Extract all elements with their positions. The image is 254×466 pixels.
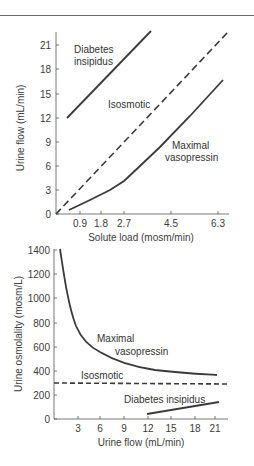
x-tick-label: 15 — [165, 423, 177, 434]
annotation-isosmotic: Isosmotic — [81, 370, 123, 381]
chart-urine-flow-vs-osmolality: 0 200 400 600 800 1000 1200 1400 3 6 9 1… — [13, 245, 229, 448]
annotation-diabetes-insipidus: insipidus — [74, 56, 113, 67]
x-tick-label: 12 — [142, 423, 154, 434]
annotation-maximal-vasopressin: vasopressin — [115, 346, 168, 357]
figure: 0 3 6 9 12 15 18 21 0.9 1.8 2.7 4.5 6.3 … — [0, 0, 254, 466]
annotation-diabetes-insipidus: Diabetes — [74, 44, 113, 55]
y-tick-label: 12 — [40, 113, 52, 124]
x-axis-title: Urine flow (mL/min) — [98, 437, 185, 448]
y-tick-label: 600 — [33, 342, 50, 353]
y-axis-title: Urine osmolality (mosm/L) — [13, 276, 24, 392]
annotation-isosmotic: Isosmotic — [108, 99, 150, 110]
x-tick-label: 4.5 — [164, 218, 178, 229]
y-tick-label: 18 — [40, 64, 52, 75]
x-tick-label: 9 — [121, 423, 127, 434]
y-tick-label: 3 — [45, 185, 51, 196]
annotation-maximal-vasopressin: vasopressin — [165, 152, 218, 163]
x-tick-label: 6.3 — [211, 218, 225, 229]
chart-solute-load-vs-urine-flow: 0 3 6 9 12 15 18 21 0.9 1.8 2.7 4.5 6.3 … — [15, 31, 229, 243]
annotation-diabetes-insipidus: Diabetes insipidus — [124, 394, 205, 405]
annotation-maximal-vasopressin: Maximal — [97, 333, 134, 344]
y-ticks — [54, 250, 57, 419]
y-tick-label: 21 — [40, 40, 52, 51]
y-tick-label: 6 — [45, 161, 51, 172]
y-tick-label: 1400 — [28, 245, 51, 256]
x-ticks — [80, 211, 218, 214]
y-tick-label: 9 — [45, 137, 51, 148]
y-tick-label: 200 — [33, 390, 50, 401]
x-tick-label: 0.9 — [73, 218, 87, 229]
y-tick-label: 0 — [45, 209, 51, 220]
x-ticks — [78, 416, 215, 419]
x-tick-label: 21 — [209, 423, 221, 434]
x-tick-label: 6 — [97, 423, 103, 434]
annotation-maximal-vasopressin: Maximal — [172, 140, 209, 151]
y-tick-label: 400 — [33, 366, 50, 377]
x-tick-label: 3 — [75, 423, 81, 434]
y-tick-label: 800 — [33, 318, 50, 329]
y-tick-label: 1200 — [28, 269, 51, 280]
series-isosmotic — [54, 383, 229, 384]
y-tick-label: 0 — [44, 414, 50, 425]
x-tick-label: 18 — [189, 423, 201, 434]
y-tick-label: 1000 — [28, 293, 51, 304]
x-axis-title: Solute load (mosm/min) — [88, 232, 194, 243]
x-tick-label: 2.7 — [117, 218, 131, 229]
y-tick-label: 15 — [40, 89, 52, 100]
x-tick-label: 1.8 — [94, 218, 108, 229]
y-axis-title: Urine flow (mL/min) — [15, 85, 26, 172]
y-ticks — [56, 45, 59, 214]
